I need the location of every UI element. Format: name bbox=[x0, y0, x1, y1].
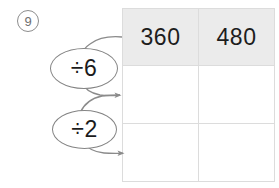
value-table: 360 480 bbox=[122, 8, 275, 182]
table-cell-header-col1: 360 bbox=[123, 9, 199, 66]
operation-bubble-divide-by-six: ÷6 bbox=[50, 48, 118, 89]
table-header-row: 360 480 bbox=[123, 9, 275, 66]
table-cell-row3-col1[interactable] bbox=[123, 124, 199, 182]
table-row-two bbox=[123, 66, 275, 124]
worksheet-canvas: 9 360 480 ÷6 ÷2 bbox=[0, 0, 279, 188]
table-cell-row2-col1[interactable] bbox=[123, 66, 199, 124]
table-row-three bbox=[123, 124, 275, 182]
table-cell-row2-col2[interactable] bbox=[199, 66, 275, 124]
arrow-head-row-two bbox=[115, 92, 122, 98]
problem-number-badge: 9 bbox=[17, 10, 39, 32]
table-cell-row3-col2[interactable] bbox=[199, 124, 275, 182]
operation-bubble-divide-by-two: ÷2 bbox=[52, 110, 117, 149]
table-cell-header-col2: 480 bbox=[199, 9, 275, 66]
